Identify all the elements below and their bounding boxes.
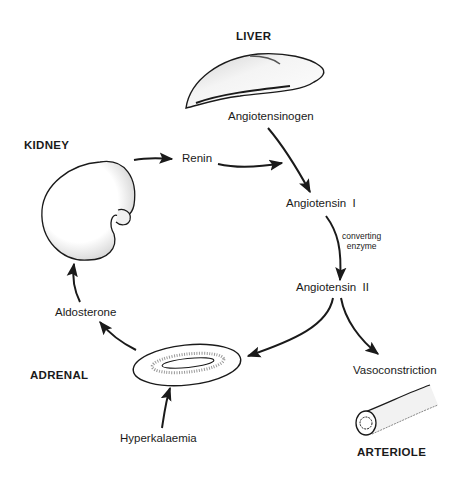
converting-enzyme-line1: converting [342,231,381,241]
converting-enzyme-line2: enzyme [342,241,381,251]
arrow-adrenal-to-aldosterone [100,322,136,350]
arrow-angiotensin-1-to-2 [326,216,340,280]
hyperkalaemia-label: Hyperkalaemia [120,432,197,444]
arrow-angiotensin-2-to-adrenal [248,298,333,356]
liver-illustration [186,54,324,108]
adrenal-illustration [131,339,243,390]
arrow-renin-to-angiotensin-1 [218,163,282,167]
arteriole-label: ARTERIOLE [357,446,426,458]
arteriole-illustration [356,385,438,435]
liver-label: LIVER [236,30,271,42]
kidney-label: KIDNEY [24,139,69,151]
arrow-aldosterone-to-kidney [73,264,80,302]
vasoconstriction-label: Vasoconstriction [353,364,437,376]
arrow-hyperkalaemia-to-adrenal [162,388,170,428]
angiotensin-2-label: Angiotensin II [296,281,369,293]
arrow-angiotensin-2-to-vasoconstriction [341,298,378,354]
renin-label: Renin [182,152,212,164]
angiotensin-1-label: Angiotensin I [286,197,356,209]
adrenal-label: ADRENAL [30,369,88,381]
diagram-canvas [0,0,467,478]
arrow-angiotensinogen-to-angiotensin-1 [268,128,310,192]
angiotensinogen-label: Angiotensinogen [228,110,314,122]
converting-enzyme-label: converting enzyme [342,231,381,251]
arrow-kidney-to-renin [134,158,172,160]
kidney-illustration [42,161,135,260]
aldosterone-label: Aldosterone [55,306,116,318]
